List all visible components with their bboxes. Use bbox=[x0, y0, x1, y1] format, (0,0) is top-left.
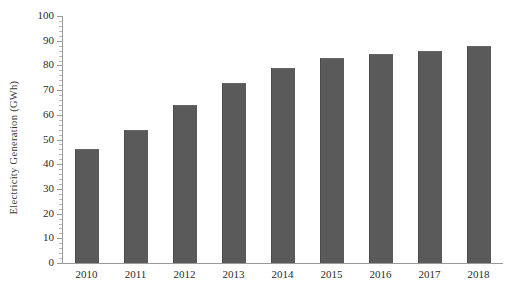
x-tick-label: 2018 bbox=[454, 268, 503, 281]
y-tick-label-text: 100 bbox=[20, 10, 54, 21]
x-tick-label: 2011 bbox=[111, 268, 160, 281]
x-tick-label: 2013 bbox=[209, 268, 258, 281]
x-tick-label: 2015 bbox=[307, 268, 356, 281]
bar-slot bbox=[454, 16, 503, 263]
x-axis-line bbox=[62, 263, 503, 264]
bar-slot bbox=[209, 16, 258, 263]
bar-slot bbox=[405, 16, 454, 263]
y-tick-label-text: 80 bbox=[20, 59, 54, 70]
x-tick-label: 2010 bbox=[62, 268, 111, 281]
bar[interactable] bbox=[173, 105, 197, 263]
y-axis-title-text: Electricity Generation (GWh) bbox=[8, 81, 19, 215]
bar-slot bbox=[111, 16, 160, 263]
bar-slot bbox=[160, 16, 209, 263]
x-axis: 201020112012201320142015201620172018 bbox=[62, 266, 503, 290]
bar[interactable] bbox=[222, 83, 246, 263]
y-tick-label-text: 50 bbox=[20, 134, 54, 145]
bar-slot bbox=[62, 16, 111, 263]
bar-slot bbox=[356, 16, 405, 263]
x-tick-label: 2017 bbox=[405, 268, 454, 281]
bar-slot bbox=[307, 16, 356, 263]
bar[interactable] bbox=[320, 58, 344, 263]
y-tick-label-text: 10 bbox=[20, 232, 54, 243]
y-tick-label-text: 40 bbox=[20, 158, 54, 169]
y-tick-label-text: 20 bbox=[20, 208, 54, 219]
bars-container bbox=[62, 16, 503, 263]
bar[interactable] bbox=[75, 149, 99, 263]
bar[interactable] bbox=[467, 46, 491, 263]
y-tick-label-text: 0 bbox=[20, 257, 54, 268]
bar[interactable] bbox=[124, 130, 148, 263]
bar[interactable] bbox=[369, 54, 393, 263]
bar-chart: Electricity Generation (GWh) 01020304050… bbox=[0, 0, 514, 295]
x-tick-label: 2016 bbox=[356, 268, 405, 281]
x-tick-label: 2012 bbox=[160, 268, 209, 281]
y-tick-label-text: 30 bbox=[20, 183, 54, 194]
y-tick-label-text: 60 bbox=[20, 109, 54, 120]
bar-slot bbox=[258, 16, 307, 263]
y-tick-label-text: 90 bbox=[20, 35, 54, 46]
x-tick-label: 2014 bbox=[258, 268, 307, 281]
bar[interactable] bbox=[418, 51, 442, 263]
y-tick-label-text: 70 bbox=[20, 84, 54, 95]
bar[interactable] bbox=[271, 68, 295, 263]
